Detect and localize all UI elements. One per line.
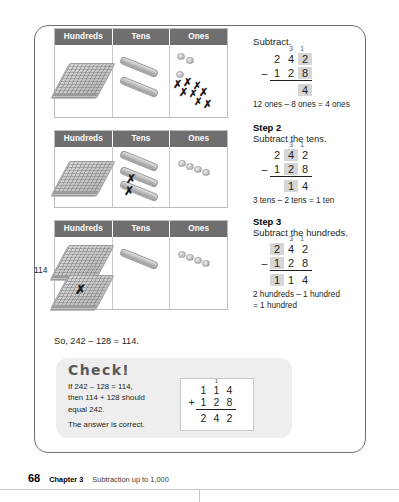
cross-out-mark: ✗ bbox=[179, 87, 188, 98]
header-tens: Tens bbox=[113, 131, 171, 147]
check-line-4: The answer is correct. bbox=[68, 420, 145, 429]
step-1-instruction: Subtract. bbox=[253, 36, 365, 47]
conclusion-text: So, 242 – 128 = 114. bbox=[54, 336, 139, 346]
header-hundreds: Hundreds bbox=[55, 29, 113, 45]
step-3-note: 2 hundreds – 1 hundred = 1 hundred bbox=[253, 289, 365, 311]
hundreds-flat-block bbox=[51, 245, 114, 277]
cell-ones: ✗ ✗ ✗ ✗ ✗ ✗ ✗ ✗ bbox=[170, 45, 227, 117]
ones-unit bbox=[178, 251, 185, 258]
addend2-ones: 8 bbox=[223, 396, 236, 408]
plus-operator: + bbox=[186, 396, 197, 408]
carry-digit: 1 bbox=[210, 377, 223, 384]
difference-row: 4 bbox=[259, 82, 323, 96]
subtrahend-row: – 1 2 8 bbox=[259, 65, 323, 79]
place-value-chart-2: Hundreds Tens Ones ✗ ✗ bbox=[54, 130, 228, 208]
minus-operator: – bbox=[259, 257, 270, 269]
difference-row: 1 4 bbox=[259, 178, 323, 192]
ones-unit bbox=[186, 163, 193, 170]
ones-unit bbox=[202, 260, 209, 267]
minuend-row: 2 34 12 bbox=[259, 241, 323, 255]
check-title: Check! bbox=[68, 362, 130, 378]
subtrahend-tens: 2 bbox=[284, 257, 298, 269]
minuend-hundreds: 2 bbox=[270, 149, 284, 161]
place-value-chart-1: Hundreds Tens Ones ✗ ✗ ✗ bbox=[54, 28, 228, 118]
subtrahend-hundreds: 1 bbox=[270, 163, 284, 175]
minuend-tens: 34 bbox=[284, 243, 298, 255]
header-tens: Tens bbox=[113, 221, 171, 237]
chart-body-row: ✗ ✗ bbox=[55, 147, 227, 207]
cross-out-mark: ✗ bbox=[75, 283, 86, 296]
ones-unit bbox=[194, 166, 201, 173]
addend-row-2: + 1 2 8 bbox=[186, 396, 248, 409]
regroup-digit-ones: 1 bbox=[295, 141, 309, 148]
sum-ones: 2 bbox=[223, 412, 236, 424]
hundreds-flat-block bbox=[52, 161, 115, 193]
textbook-page: Hundreds Tens Ones ✗ ✗ ✗ bbox=[0, 0, 399, 502]
difference-ones: 4 bbox=[298, 274, 312, 286]
addend1-ones: 4 bbox=[223, 384, 236, 396]
page-number: 68 bbox=[28, 472, 40, 484]
minuend-ones: 12 bbox=[298, 149, 312, 161]
step-2-heading: Step 2 bbox=[253, 122, 365, 133]
chart-row-label: 114 bbox=[34, 265, 47, 275]
cell-ones bbox=[170, 237, 227, 309]
regroup-digit-ones: 1 bbox=[295, 45, 309, 52]
header-hundreds: Hundreds bbox=[55, 131, 113, 147]
subtraction-rule bbox=[270, 176, 312, 177]
header-ones: Ones bbox=[170, 29, 227, 45]
check-callout-box: Check! If 242 – 128 = 114, then 114 + 12… bbox=[56, 358, 292, 438]
difference-row: 1 1 4 bbox=[259, 272, 323, 286]
sum-hundreds: 2 bbox=[197, 412, 210, 424]
ones-unit bbox=[177, 53, 184, 60]
difference-hundreds: 1 bbox=[270, 274, 284, 286]
addend1-hundreds: 1 bbox=[197, 384, 210, 396]
step-2: Step 2 Subtract the tens. 2 34 12 – 1 2 … bbox=[253, 122, 365, 206]
subtrahend-row: – 1 2 8 bbox=[259, 255, 323, 269]
subtrahend-hundreds: 1 bbox=[270, 257, 284, 269]
steps-column: Subtract. 2 34 12 – 1 2 8 bbox=[253, 36, 365, 312]
chapter-title: Subtraction up to 1,000 bbox=[92, 475, 168, 484]
ones-unit bbox=[186, 57, 193, 64]
chart-header-row: Hundreds Tens Ones bbox=[55, 131, 227, 147]
difference-tens: 1 bbox=[284, 274, 298, 286]
ones-unit bbox=[178, 160, 185, 167]
cell-ones bbox=[170, 147, 227, 207]
sum-row: 2 4 2 bbox=[186, 411, 248, 424]
step-3-note-line-2: = 1 hundred bbox=[253, 301, 297, 310]
step-3-heading: Step 3 bbox=[253, 216, 365, 227]
minuend-row: 2 34 12 bbox=[259, 147, 323, 161]
step-2-subtraction-work: 2 34 12 – 1 2 8 1 4 bbox=[259, 147, 323, 192]
minuend-tens: 34 bbox=[284, 149, 298, 161]
cell-hundreds bbox=[55, 147, 113, 207]
cross-out-mark: ✗ bbox=[124, 185, 134, 197]
cell-hundreds bbox=[55, 45, 113, 117]
step-3: Step 3 Subtract the hundreds. 2 34 12 – … bbox=[253, 216, 365, 311]
minuend-tens-value: 4 bbox=[288, 53, 294, 65]
page-footer: 68 Chapter 3 Subtraction up to 1,000 bbox=[28, 472, 169, 484]
place-value-chart-3: 114 Hundreds Tens Ones ✗ bbox=[54, 220, 228, 310]
step-3-instruction: Subtract the hundreds. bbox=[253, 227, 365, 238]
spacer bbox=[68, 415, 172, 419]
footer-tick-mark bbox=[199, 489, 200, 502]
ones-unit bbox=[186, 254, 193, 261]
minus-operator: – bbox=[259, 67, 270, 79]
cell-tens bbox=[113, 45, 171, 117]
step-1: Subtract. 2 34 12 – 1 2 8 bbox=[253, 36, 365, 110]
difference-tens: 1 bbox=[284, 180, 298, 192]
subtrahend-ones: 8 bbox=[298, 163, 312, 175]
check-addition-work: 1 11 4 + 1 2 8 2 4 2 bbox=[180, 378, 254, 431]
header-hundreds: Hundreds bbox=[55, 221, 113, 237]
addend-row-1: 1 11 4 bbox=[186, 383, 248, 396]
minuend-hundreds: 2 bbox=[270, 243, 284, 255]
minuend-ones-value: 2 bbox=[302, 243, 308, 255]
step-3-subtraction-work: 2 34 12 – 1 2 8 1 1 4 bbox=[259, 241, 323, 286]
ones-unit bbox=[202, 169, 209, 176]
addition-columns: 1 11 4 + 1 2 8 2 4 2 bbox=[186, 383, 248, 424]
step-1-subtraction-work: 2 34 12 – 1 2 8 4 bbox=[259, 51, 323, 96]
check-body-text: If 242 – 128 = 114, then 114 + 128 shoul… bbox=[68, 381, 172, 430]
subtrahend-tens: 2 bbox=[284, 67, 298, 79]
minuend-tens: 34 bbox=[284, 53, 298, 65]
chapter-label: Chapter 3 bbox=[49, 475, 83, 484]
hundreds-flat-block bbox=[52, 63, 115, 95]
sum-tens: 4 bbox=[210, 412, 223, 424]
